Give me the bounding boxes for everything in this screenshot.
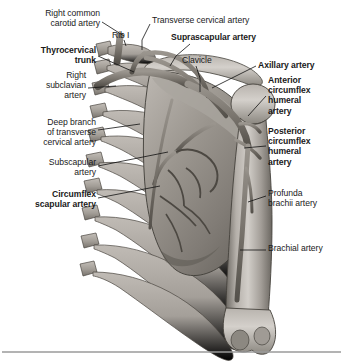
label-suprascapular-artery: Suprascapular artery xyxy=(171,32,301,42)
label-axillary-artery: Axillary artery xyxy=(258,60,342,70)
label-right-common-carotid-artery: Right common carotid artery xyxy=(4,8,100,28)
label-brachial-artery: Brachial artery xyxy=(268,243,343,253)
label-transverse-cervical-artery: Transverse cervical artery xyxy=(152,15,292,25)
label-circumflex-scapular-artery: Circumflex scapular artery xyxy=(4,189,96,209)
label-rib-i: Rib I xyxy=(112,30,146,40)
label-subscapular-artery: Subscapular artery xyxy=(4,157,96,177)
label-clavicle: Clavicle xyxy=(182,55,230,65)
label-deep-branch-of-transverse-cervical-artery: Deep branch of transverse cervical arter… xyxy=(4,117,96,148)
label-posterior-circumflex-humeral-artery: Posterior circumflex humeral artery xyxy=(268,126,340,167)
label-profunda-brachii-artery: Profunda brachii artery xyxy=(268,188,342,208)
label-thyrocervical-trunk: Thyrocervical trunk xyxy=(4,45,96,65)
label-anterior-circumflex-humeral-artery: Anterior circumflex humeral artery xyxy=(268,75,340,116)
label-right-subclavian-artery: Right subclavian artery xyxy=(4,70,86,101)
